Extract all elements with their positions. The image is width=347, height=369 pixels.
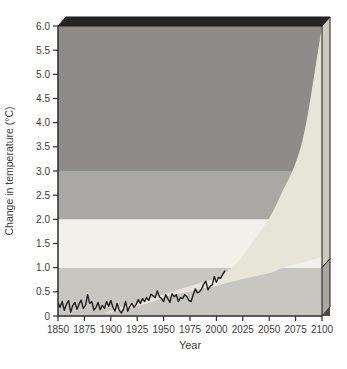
side-face-lower [322,259,330,316]
y-tick-label: 2.0 [36,214,50,225]
side-face-upper [322,17,330,268]
x-tick-label: 2000 [205,324,228,335]
top-face [58,17,330,26]
y-tick-label: 0.5 [36,286,50,297]
x-axis-title: Year [179,339,202,351]
risk-bands [58,26,322,316]
y-tick-label: 3.5 [36,141,50,152]
x-tick-label: 2075 [284,324,307,335]
y-tick-label: 1.5 [36,238,50,249]
x-tick-label: 2050 [258,324,281,335]
x-tick-label: 1850 [47,324,70,335]
x-tick-label: 1950 [152,324,175,335]
x-tick-label: 1925 [126,324,149,335]
y-tick-label: 5.5 [36,45,50,56]
band-0-1 [58,268,322,316]
x-tick-label: 1900 [100,324,123,335]
band-3-6 [58,26,322,171]
y-tick-label: 6.0 [36,21,50,32]
y-tick-labels: 00.51.01.52.02.53.03.54.04.55.05.56.0 [36,21,50,322]
y-tick-label: 3.0 [36,166,50,177]
y-axis-title: Change in temperature (°C) [3,106,15,235]
x-tick-label: 1875 [73,324,96,335]
y-tick-label: 0 [44,311,50,322]
y-tick-label: 5.0 [36,69,50,80]
chart-canvas: 1850187519001925195019752000202520502075… [0,0,347,369]
temperature-projection-figure: 1850187519001925195019752000202520502075… [0,0,347,369]
y-tick-label: 4.0 [36,117,50,128]
y-tick-label: 2.5 [36,190,50,201]
x-tick-labels: 1850187519001925195019752000202520502075… [47,324,334,335]
x-tick-label: 1975 [179,324,202,335]
x-tick-label: 2025 [232,324,255,335]
y-tick-label: 4.5 [36,93,50,104]
x-tick-label: 2100 [311,324,334,335]
y-tick-label: 1.0 [36,262,50,273]
